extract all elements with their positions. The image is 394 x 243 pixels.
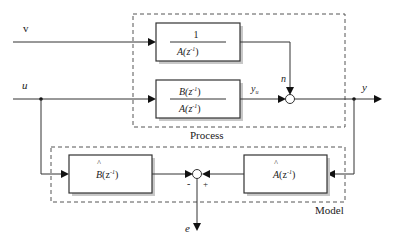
arrow-icon [286,87,294,95]
arrow-icon [193,223,201,231]
noise-filter-block: 1 A(z-1) [156,23,243,64]
output-e-label: e [185,222,190,234]
output-y-label: y [361,81,367,93]
input-v-label: v [23,22,29,34]
arrow-icon [61,170,69,178]
block-diagram: Process Model v 1 A(z-1) n u B(z-1) A(z-… [0,0,394,243]
b-hat-label: B(z-1) [96,169,118,181]
plant-block: B(z-1) A(z-1) [156,80,243,121]
summing-junction-model [193,170,202,179]
noise-filter-numerator: 1 [194,29,199,40]
plus-sign: + [203,179,208,189]
arrow-icon [202,170,210,178]
arrow-icon [278,95,286,103]
arrow-icon [148,38,156,46]
a-hat-block: ^ A(z-1) [244,155,330,196]
y-to-ahat-wire [334,99,354,174]
minus-sign: - [187,178,190,189]
signal-yu-label: yu [250,83,258,95]
arrow-icon [148,95,156,103]
model-label: Model [315,204,344,216]
plant-numerator: B(z-1) [179,86,201,98]
b-hat-block: ^ B(z-1) [69,155,155,196]
arrow-icon [185,170,193,178]
plant-denominator: A(z-1) [178,103,201,115]
signal-n-label: n [281,73,286,84]
arrow-icon [374,95,382,103]
summing-junction-process [286,95,295,104]
noise-filter-denominator: A(z-1) [176,46,199,58]
u-to-bhat-wire [41,99,63,174]
process-label: Process [190,129,224,141]
a-hat-label: A(z-1) [272,169,295,181]
input-u-label: u [22,79,28,91]
